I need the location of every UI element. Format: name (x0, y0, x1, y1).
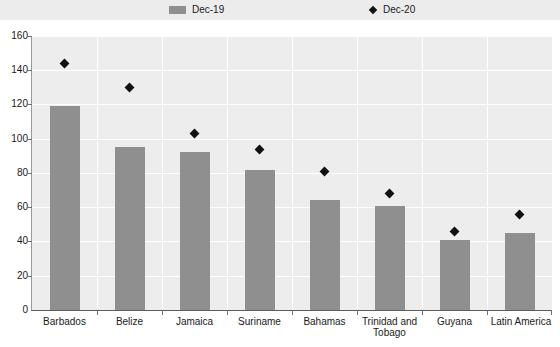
x-tick-mark-1 (97, 310, 98, 315)
y-tick-mark-100 (27, 139, 32, 140)
x-tick-mark-3 (227, 310, 228, 315)
y-tick-mark-80 (27, 173, 32, 174)
x-label-latin-america: Latin America (485, 316, 557, 327)
y-tick-mark-140 (27, 70, 32, 71)
legend-square-swatch-icon (169, 6, 186, 14)
vgridline-5 (357, 36, 358, 310)
y-tick-mark-120 (27, 104, 32, 105)
x-label-trinidad-and-tobago: Trinidad and Tobago (355, 316, 424, 338)
y-tick-label-60: 60 (2, 202, 28, 212)
bar-bahamas[interactable] (310, 200, 340, 310)
y-tick-label-100: 100 (2, 134, 28, 144)
x-label-guyana: Guyana (422, 316, 487, 327)
x-tick-mark-2 (162, 310, 163, 315)
chart-container: Dec-19 Dec-20 160 140 120 100 80 60 40 2… (0, 0, 560, 347)
bar-latin-america[interactable] (505, 233, 535, 310)
y-tick-mark-160 (27, 36, 32, 37)
plot-area (32, 36, 552, 310)
y-tick-mark-20 (27, 276, 32, 277)
legend-item-dec20: Dec-20 (370, 0, 415, 20)
y-tick-label-120: 120 (2, 99, 28, 109)
y-tick-label-80: 80 (2, 168, 28, 178)
y-tick-label-0: 0 (2, 305, 28, 315)
x-label-belize: Belize (97, 316, 162, 327)
y-tick-mark-40 (27, 241, 32, 242)
bar-guyana[interactable] (440, 240, 470, 310)
y-tick-label-40: 40 (2, 236, 28, 246)
vgridline-7 (487, 36, 488, 310)
bar-jamaica[interactable] (180, 152, 210, 310)
vgridline-1 (97, 36, 98, 310)
x-tick-mark-7 (487, 310, 488, 315)
x-tick-mark-4 (292, 310, 293, 315)
y-tick-label-160: 160 (2, 31, 28, 41)
x-label-bahamas: Bahamas (292, 316, 357, 327)
y-tick-label-140: 140 (2, 65, 28, 75)
x-label-barbados: Barbados (32, 316, 97, 327)
y-tick-mark-60 (27, 207, 32, 208)
legend-item-dec19: Dec-19 (169, 0, 224, 20)
chart-legend: Dec-19 Dec-20 (0, 0, 560, 20)
x-tick-mark-5 (357, 310, 358, 315)
vgridline-3 (227, 36, 228, 310)
x-tick-mark-6 (422, 310, 423, 315)
vgridline-4 (292, 36, 293, 310)
bar-trinidad-and-tobago[interactable] (375, 206, 405, 310)
bar-suriname[interactable] (245, 170, 275, 310)
x-label-suriname: Suriname (227, 316, 292, 327)
legend-label-dec19: Dec-19 (192, 5, 224, 15)
vgridline-2 (162, 36, 163, 310)
bar-barbados[interactable] (50, 106, 80, 310)
vgridline-6 (422, 36, 423, 310)
x-tick-mark-8 (551, 310, 552, 315)
legend-label-dec20: Dec-20 (383, 5, 415, 15)
bar-belize[interactable] (115, 147, 145, 310)
legend-diamond-marker-icon (369, 6, 377, 14)
y-tick-label-20: 20 (2, 271, 28, 281)
x-label-jamaica: Jamaica (162, 316, 227, 327)
